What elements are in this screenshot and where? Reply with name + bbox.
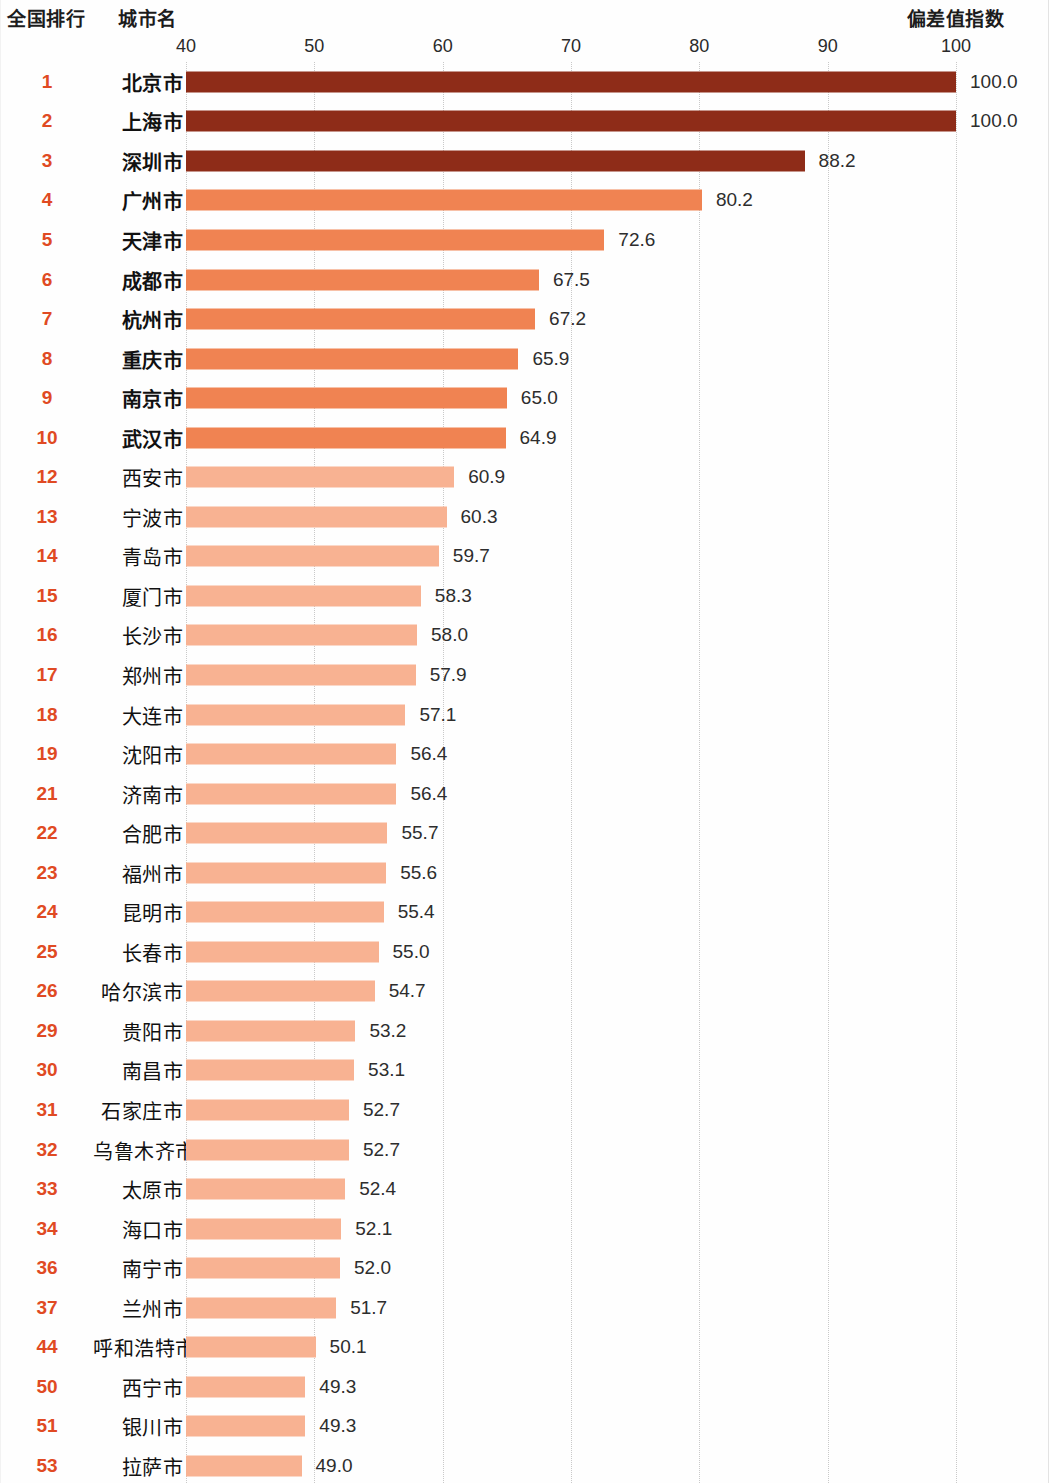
table-row[interactable]: 9南京市65.0 bbox=[1, 378, 1049, 418]
table-row[interactable]: 15厦门市58.3 bbox=[1, 576, 1049, 616]
city-name: 大连市 bbox=[93, 700, 183, 729]
bar bbox=[186, 1416, 305, 1437]
column-header-rank: 全国排行 bbox=[7, 4, 85, 31]
table-row[interactable]: 2上海市100.0 bbox=[1, 102, 1049, 142]
city-name: 长春市 bbox=[93, 937, 183, 966]
table-row[interactable]: 51银川市49.3 bbox=[1, 1407, 1049, 1447]
bar bbox=[186, 269, 539, 290]
rank-value: 13 bbox=[1, 506, 93, 528]
bar bbox=[186, 981, 375, 1002]
rank-value: 2 bbox=[1, 110, 93, 132]
table-row[interactable]: 37兰州市51.7 bbox=[1, 1288, 1049, 1328]
city-name: 广州市 bbox=[93, 186, 183, 215]
table-row[interactable]: 5天津市72.6 bbox=[1, 220, 1049, 260]
bar-value-label: 88.2 bbox=[805, 150, 856, 172]
rank-value: 17 bbox=[1, 664, 93, 686]
bar-value-label: 60.9 bbox=[454, 466, 505, 488]
bar-value-label: 50.1 bbox=[316, 1336, 367, 1358]
table-row[interactable]: 7杭州市67.2 bbox=[1, 299, 1049, 339]
bar-value-label: 67.5 bbox=[539, 269, 590, 291]
bar-value-label: 58.0 bbox=[417, 624, 468, 646]
table-row[interactable]: 44呼和浩特市50.1 bbox=[1, 1328, 1049, 1368]
table-row[interactable]: 19沈阳市56.4 bbox=[1, 734, 1049, 774]
bar bbox=[186, 1455, 302, 1476]
bar-rows: 1北京市100.02上海市100.03深圳市88.24广州市80.25天津市72… bbox=[1, 62, 1049, 1483]
table-row[interactable]: 21济南市56.4 bbox=[1, 774, 1049, 814]
city-name: 济南市 bbox=[93, 779, 183, 808]
city-name: 郑州市 bbox=[93, 660, 183, 689]
bar-value-label: 49.0 bbox=[302, 1455, 353, 1477]
rank-value: 23 bbox=[1, 862, 93, 884]
rank-value: 15 bbox=[1, 585, 93, 607]
rank-value: 18 bbox=[1, 704, 93, 726]
x-axis-tick-80: 80 bbox=[689, 36, 709, 57]
rank-value: 51 bbox=[1, 1415, 93, 1437]
table-row[interactable]: 30南昌市53.1 bbox=[1, 1051, 1049, 1091]
city-name: 厦门市 bbox=[93, 581, 183, 610]
bar bbox=[186, 111, 956, 132]
bar bbox=[186, 388, 507, 409]
table-row[interactable]: 17郑州市57.9 bbox=[1, 655, 1049, 695]
city-name: 南宁市 bbox=[93, 1254, 183, 1283]
rank-value: 12 bbox=[1, 466, 93, 488]
bar-value-label: 52.7 bbox=[349, 1099, 400, 1121]
table-row[interactable]: 36南宁市52.0 bbox=[1, 1248, 1049, 1288]
city-name: 南京市 bbox=[93, 384, 183, 413]
table-row[interactable]: 32乌鲁木齐市52.7 bbox=[1, 1130, 1049, 1170]
table-row[interactable]: 25长春市55.0 bbox=[1, 932, 1049, 972]
city-name: 武汉市 bbox=[93, 423, 183, 452]
x-axis-tick-50: 50 bbox=[304, 36, 324, 57]
rank-value: 3 bbox=[1, 150, 93, 172]
table-row[interactable]: 22合肥市55.7 bbox=[1, 813, 1049, 853]
bar-value-label: 53.1 bbox=[354, 1059, 405, 1081]
table-row[interactable]: 34海口市52.1 bbox=[1, 1209, 1049, 1249]
x-axis-tick-70: 70 bbox=[561, 36, 581, 57]
bar-value-label: 60.3 bbox=[447, 506, 498, 528]
table-row[interactable]: 18大连市57.1 bbox=[1, 695, 1049, 735]
bar-value-label: 65.9 bbox=[518, 348, 569, 370]
city-name: 成都市 bbox=[93, 265, 183, 294]
table-row[interactable]: 8重庆市65.9 bbox=[1, 339, 1049, 379]
city-name: 海口市 bbox=[93, 1214, 183, 1243]
bar-value-label: 52.7 bbox=[349, 1139, 400, 1161]
table-row[interactable]: 4广州市80.2 bbox=[1, 181, 1049, 221]
table-row[interactable]: 23福州市55.6 bbox=[1, 853, 1049, 893]
table-row[interactable]: 29贵阳市53.2 bbox=[1, 1011, 1049, 1051]
table-row[interactable]: 31石家庄市52.7 bbox=[1, 1090, 1049, 1130]
table-row[interactable]: 1北京市100.0 bbox=[1, 62, 1049, 102]
rank-value: 8 bbox=[1, 348, 93, 370]
bar-value-label: 58.3 bbox=[421, 585, 472, 607]
city-name: 北京市 bbox=[93, 67, 183, 96]
bar bbox=[186, 1179, 345, 1200]
bar bbox=[186, 71, 956, 92]
city-name: 福州市 bbox=[93, 858, 183, 887]
bar bbox=[186, 427, 506, 448]
table-row[interactable]: 26哈尔滨市54.7 bbox=[1, 972, 1049, 1012]
city-name: 银川市 bbox=[93, 1412, 183, 1441]
rank-value: 29 bbox=[1, 1020, 93, 1042]
table-row[interactable]: 13宁波市60.3 bbox=[1, 497, 1049, 537]
table-row[interactable]: 53拉萨市49.0 bbox=[1, 1446, 1049, 1483]
table-row[interactable]: 33太原市52.4 bbox=[1, 1169, 1049, 1209]
bar bbox=[186, 1099, 349, 1120]
table-row[interactable]: 14青岛市59.7 bbox=[1, 537, 1049, 577]
table-row[interactable]: 3深圳市88.2 bbox=[1, 141, 1049, 181]
table-row[interactable]: 6成都市67.5 bbox=[1, 260, 1049, 300]
rank-value: 25 bbox=[1, 941, 93, 963]
bar bbox=[186, 150, 805, 171]
bar-value-label: 54.7 bbox=[375, 980, 426, 1002]
table-row[interactable]: 24昆明市55.4 bbox=[1, 892, 1049, 932]
rank-value: 44 bbox=[1, 1336, 93, 1358]
bar bbox=[186, 1376, 305, 1397]
bar bbox=[186, 783, 396, 804]
rank-value: 14 bbox=[1, 545, 93, 567]
table-row[interactable]: 12西安市60.9 bbox=[1, 457, 1049, 497]
table-row[interactable]: 10武汉市64.9 bbox=[1, 418, 1049, 458]
rank-value: 31 bbox=[1, 1099, 93, 1121]
city-name: 贵阳市 bbox=[93, 1016, 183, 1045]
table-row[interactable]: 16长沙市58.0 bbox=[1, 616, 1049, 656]
rank-value: 10 bbox=[1, 427, 93, 449]
city-name: 沈阳市 bbox=[93, 740, 183, 769]
bar-value-label: 52.1 bbox=[341, 1218, 392, 1240]
table-row[interactable]: 50西宁市49.3 bbox=[1, 1367, 1049, 1407]
